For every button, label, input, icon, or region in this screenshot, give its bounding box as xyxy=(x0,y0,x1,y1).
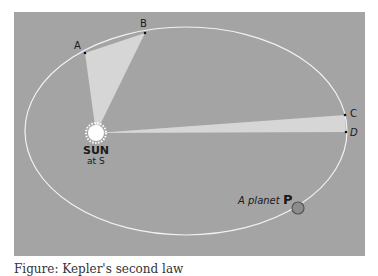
planet-icon xyxy=(292,202,304,214)
point-b-marker xyxy=(144,32,147,35)
point-a-marker xyxy=(84,52,87,55)
sun-icon xyxy=(86,123,106,143)
planet-label: A planet xyxy=(238,196,280,206)
sun-sublabel: at S xyxy=(87,157,105,166)
point-c-label: C xyxy=(350,109,357,119)
figure-caption: Figure: Kepler's second law xyxy=(14,262,183,276)
point-b-label: B xyxy=(140,19,147,29)
swept-area-ab xyxy=(85,33,145,133)
planet-letter: P xyxy=(283,193,293,206)
point-d-marker xyxy=(345,131,348,134)
point-d-label: D xyxy=(350,128,358,138)
swept-area-cd xyxy=(96,115,346,133)
point-c-marker xyxy=(344,114,347,117)
point-a-label: A xyxy=(74,41,81,51)
sun-label: SUN xyxy=(83,145,109,156)
